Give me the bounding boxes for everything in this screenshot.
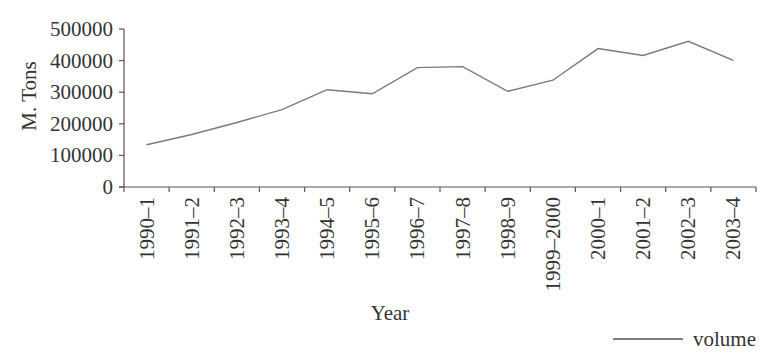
legend-label-volume: volume [693, 327, 756, 351]
x-tick-label: 2001–2 [631, 197, 655, 260]
x-tick-label: 1992–3 [225, 197, 249, 260]
y-axis: 0100000200000300000400000500000 [50, 17, 124, 199]
y-tick-label: 0 [103, 175, 114, 199]
x-tick-label: 1993–4 [270, 197, 294, 261]
x-axis-label: Year [371, 301, 410, 325]
x-tick-label: 1997–8 [451, 197, 475, 260]
x-axis: 1990–11991–21992–31993–41994–51995–61996… [119, 187, 756, 292]
x-tick-label: 2002–3 [676, 197, 700, 260]
x-tick-label: 1998–9 [496, 197, 520, 260]
x-tick-label: 1990–1 [135, 197, 159, 260]
y-axis-label: M. Tons [17, 61, 41, 130]
y-tick-label: 500000 [50, 17, 113, 41]
series-volume [147, 41, 734, 144]
x-tick-label: 1999–2000 [541, 197, 565, 292]
series-line [147, 41, 734, 144]
y-tick-label: 100000 [50, 143, 113, 167]
x-tick-label: 1994–5 [315, 197, 339, 260]
x-tick-label: 1995–6 [360, 197, 384, 260]
x-tick-label: 1991–2 [180, 197, 204, 260]
legend: volume [613, 327, 756, 351]
line-chart: 0100000200000300000400000500000 1990–119… [0, 0, 776, 362]
y-tick-label: 400000 [50, 49, 113, 73]
x-tick-label: 1996–7 [405, 197, 429, 260]
x-tick-label: 2003–4 [721, 197, 745, 261]
y-tick-label: 300000 [50, 80, 113, 104]
x-tick-label: 2000–1 [586, 197, 610, 260]
y-tick-label: 200000 [50, 112, 113, 136]
